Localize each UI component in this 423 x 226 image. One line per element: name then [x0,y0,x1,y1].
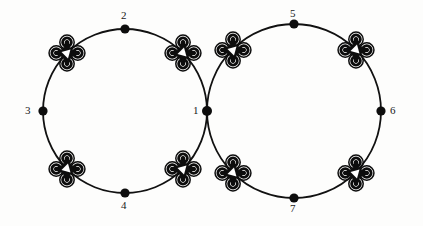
waypoint-node-1 [202,106,212,116]
trajectory-diagram [0,0,423,226]
waypoint-node-6 [376,106,385,115]
waypoint-label-7: 7 [290,203,296,214]
quadcopter-icon [335,152,377,194]
waypoint-node-5 [289,19,298,28]
quadcopter-icon [162,32,204,74]
quadcopter-icon [212,29,254,71]
quadcopter-icon [162,148,204,190]
waypoint-label-2: 2 [121,10,127,21]
waypoint-node-4 [120,188,129,197]
quadcopter-icon [46,32,88,74]
waypoint-label-6: 6 [390,105,396,116]
quadcopter-icon [46,148,88,190]
waypoint-node-2 [120,24,129,33]
figure-canvas: 1234567 [0,0,423,226]
waypoint-label-3: 3 [25,105,31,116]
waypoint-label-4: 4 [121,200,127,211]
quadcopter-icon [212,152,254,194]
quadcopter-icon [335,29,377,71]
waypoint-nodes [38,19,385,202]
waypoint-node-3 [38,106,47,115]
waypoint-label-1: 1 [193,105,199,116]
waypoint-label-5: 5 [290,8,296,19]
